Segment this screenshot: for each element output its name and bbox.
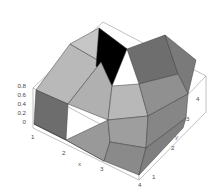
surface-mesh: [34, 28, 196, 175]
y-axis-label: y: [175, 133, 179, 140]
y-tick-label: 1: [152, 173, 156, 180]
y-tick-label: 2: [171, 144, 175, 151]
x-tick-label: 3: [100, 165, 104, 172]
y-tick-label: 4: [196, 95, 200, 102]
z-tick-label: 0.6: [17, 91, 26, 98]
z-tick-label: 0.8: [17, 82, 26, 89]
surface-plot-figure: 0.8 0.6 0.4 0.2 0 1 2 3 4 x 4 3 2 1 y: [0, 0, 215, 195]
x-tick-label: 1: [31, 133, 35, 140]
z-tick-label: 0.4: [17, 100, 26, 107]
plot-canvas: 0.8 0.6 0.4 0.2 0 1 2 3 4 x 4 3 2 1 y: [0, 0, 215, 195]
x-tick-label: 4: [138, 181, 142, 188]
x-tick-label: 2: [62, 149, 66, 156]
facet-front-skirt-left: [104, 142, 146, 175]
z-tick-label: 0: [23, 118, 27, 125]
x-axis-label: x: [78, 160, 82, 167]
z-axis-ticks: 0.8 0.6 0.4 0.2 0: [17, 82, 26, 125]
z-tick-label: 0.2: [17, 109, 26, 116]
y-tick-label: 3: [186, 115, 190, 122]
